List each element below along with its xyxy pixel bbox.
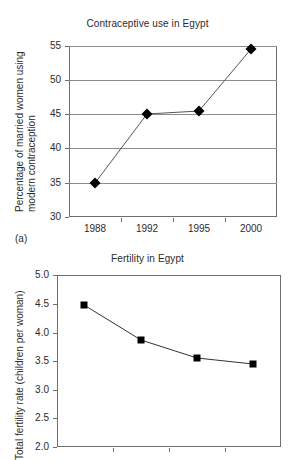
data-point-b-1995 [194, 355, 201, 362]
data-point-b-1992 [138, 337, 145, 344]
data-point-b-2000 [250, 361, 257, 368]
series-line-fertility [84, 305, 253, 364]
data-point-b-1988 [81, 302, 88, 309]
